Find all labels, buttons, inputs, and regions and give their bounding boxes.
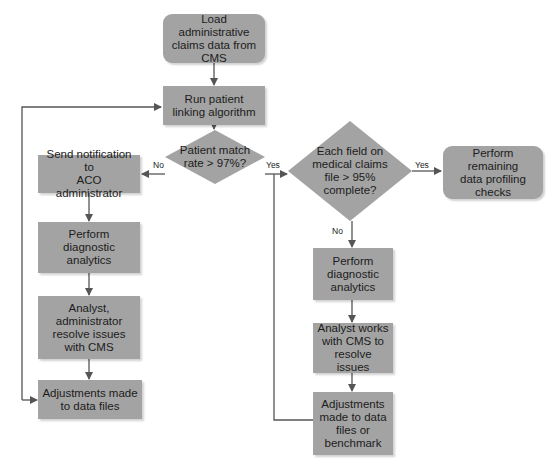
node-send-notification: Send notification to ACO administrator [38,155,140,193]
node-adjustments-right: Adjustments made to data files or benchm… [313,392,393,455]
decision-patient-match-text: Patient match rate > 97%? [170,138,260,176]
flowchart-canvas: Load administrative claims data from CMS… [0,0,558,473]
decision-field-complete-text: Each field on medical claims file > 95% … [300,143,400,199]
node-run-linking-algorithm: Run patient linking algorithm [163,86,265,125]
label-match-no: No [153,160,164,170]
node-analyst-works-cms: Analyst works with CMS to resolve issues [313,323,393,373]
node-diagnostic-analytics-left: Perform diagnostic analytics [38,222,140,273]
node-diagnostic-analytics-right: Perform diagnostic analytics [313,248,393,300]
node-adjustments-left: Adjustments made to data files [38,380,142,419]
label-field-yes: Yes [415,160,429,170]
node-analyst-resolve-left: Analyst, administrator resolve issues wi… [38,296,140,359]
label-field-no: No [332,226,343,236]
node-load-claims-data: Load administrative claims data from CMS [163,14,265,63]
node-remaining-profiling-checks: Perform remaining data profiling checks [443,146,543,199]
label-match-yes: Yes [266,160,280,170]
